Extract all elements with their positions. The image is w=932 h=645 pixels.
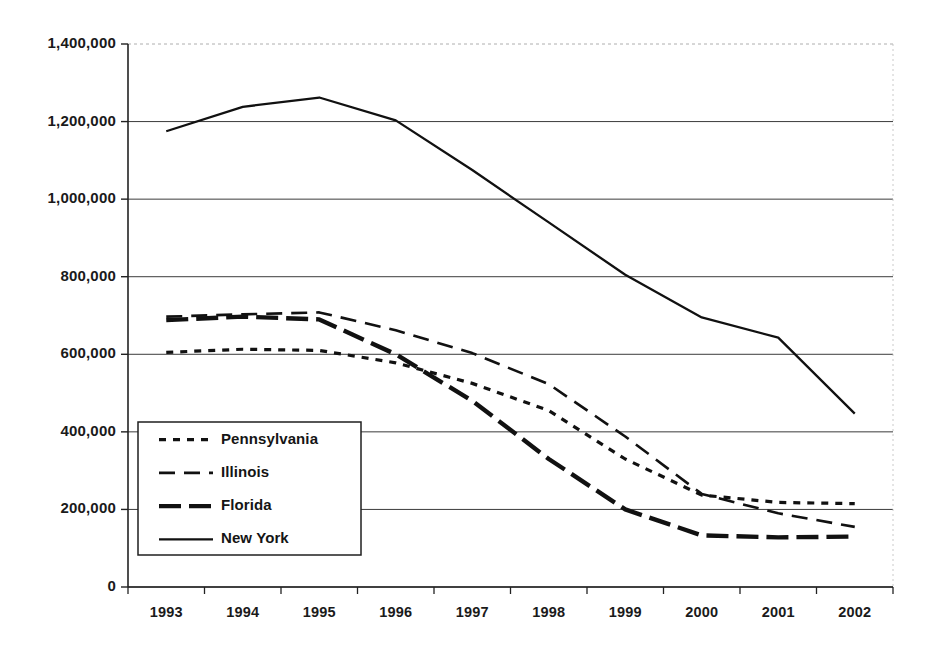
x-axis-tick-label: 2001 xyxy=(738,604,818,620)
y-axis-tick-label: 1,000,000 xyxy=(47,189,116,206)
chart-canvas xyxy=(0,0,932,645)
x-axis-tick-label: 1999 xyxy=(585,604,665,620)
y-axis-tick-label: 200,000 xyxy=(60,499,116,516)
legend-label-new-york: New York xyxy=(221,529,289,546)
x-axis-tick-label: 2002 xyxy=(815,604,895,620)
x-axis-tick-label: 1996 xyxy=(356,604,436,620)
y-axis-tick-label: 1,200,000 xyxy=(47,112,116,129)
legend-label-florida: Florida xyxy=(221,496,272,513)
y-axis-ticks xyxy=(121,44,128,587)
x-axis-tick-label: 1995 xyxy=(279,604,359,620)
y-axis-tick-label: 0 xyxy=(107,577,116,594)
series-line-new-york xyxy=(166,98,855,414)
y-axis-tick-label: 400,000 xyxy=(60,422,116,439)
y-axis-tick-label: 800,000 xyxy=(60,267,116,284)
x-axis-tick-label: 1997 xyxy=(432,604,512,620)
legend-label-illinois: Illinois xyxy=(221,463,269,480)
x-axis-tick-label: 1998 xyxy=(509,604,589,620)
x-axis-tick-label: 1994 xyxy=(203,604,283,620)
x-axis-tick-label: 2000 xyxy=(662,604,742,620)
line-chart: 1,400,0001,200,0001,000,000800,000600,00… xyxy=(0,0,932,645)
legend-label-pennsylvania: Pennsylvania xyxy=(221,430,318,447)
y-axis-tick-label: 600,000 xyxy=(60,344,116,361)
x-axis-tick-label: 1993 xyxy=(126,604,206,620)
y-axis-tick-label: 1,400,000 xyxy=(47,34,116,51)
x-axis-ticks xyxy=(128,587,893,594)
